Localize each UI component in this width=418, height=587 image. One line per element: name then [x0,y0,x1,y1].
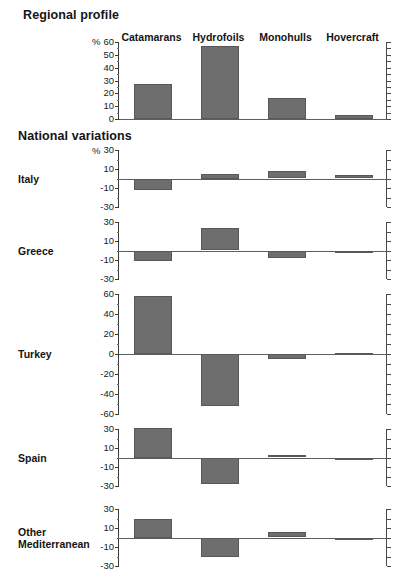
right-axis-tick [387,160,391,161]
y-tick-major [115,414,119,415]
right-axis-tick [387,404,391,405]
right-axis-tick [387,374,391,375]
y-tick-label-regional-0: 0 [109,114,114,124]
right-axis-tick [387,150,391,151]
y-tick-label-turkey-4: 20 [103,329,114,339]
y-tick-minor [117,232,120,233]
right-axis-tick [387,467,391,468]
bar-italy-catamarans [134,179,172,190]
y-tick-major [115,394,119,395]
y-tick-label-turkey-2: -20 [100,369,114,379]
right-axis-tick [387,394,391,395]
y-tick-minor [117,61,120,62]
y-tick-label-turkey-3: 0 [109,349,114,359]
y-tick-major [115,334,119,335]
y-tick-major [115,207,119,208]
right-axis-other [386,509,387,566]
chart-figure: Regional profile National variations Cat… [0,0,418,587]
right-axis-tick [387,100,391,101]
row-label-italy: Italy [18,173,39,185]
bar-regional-monohulls [268,98,306,119]
bar-turkey-monohulls [268,354,306,359]
y-tick-major [115,169,119,170]
y-tick-label-regional-1: 10 [103,101,114,111]
y-tick-label-other-3: 30 [103,504,114,514]
y-tick-label-other-1: -10 [100,542,114,552]
bar-regional-hovercraft [335,115,373,119]
right-axis-tick [387,42,391,43]
y-tick-minor [117,477,120,478]
y-tick-minor [117,100,120,101]
row-label-spain: Spain [18,452,47,464]
bar-italy-hydrofoils [201,174,239,179]
right-axis-tick [387,119,391,120]
y-tick-label-spain-1: -10 [100,462,114,472]
right-axis-tick [387,232,391,233]
y-tick-minor [117,458,120,459]
row-label-line: Mediterranean [18,538,90,550]
right-axis-turkey [386,294,387,414]
y-tick-label-turkey-5: 40 [103,309,114,319]
y-tick-major [115,314,119,315]
y-tick-label-spain-0: -30 [100,481,114,491]
right-axis-tick [387,87,391,88]
bar-other-hovercraft [335,538,373,540]
bar-turkey-catamarans [134,296,172,354]
right-axis-tick [387,566,391,567]
right-axis-tick [387,477,391,478]
y-tick-minor [117,557,120,558]
y-tick-label-regional-2: 20 [103,89,114,99]
bar-other-hydrofoils [201,538,239,558]
y-tick-label-italy-0: -30 [100,202,114,212]
y-tick-label-other-0: -30 [100,561,114,571]
y-tick-label-turkey-0: -60 [100,409,114,419]
row-label-other: OtherMediterranean [18,526,90,550]
right-axis-tick [387,74,391,75]
y-tick-major [115,294,119,295]
row-label-line: Turkey [18,348,52,360]
panel-regional: 0102030405060 [0,42,418,119]
right-axis-tick [387,528,391,529]
bar-italy-monohulls [268,171,306,179]
bar-other-monohulls [268,532,306,538]
y-tick-label-spain-2: 10 [103,443,114,453]
panel-other: -30-101030OtherMediterranean [0,509,418,566]
right-axis-greece [386,222,387,279]
y-tick-major [115,429,119,430]
right-axis-tick [387,169,391,170]
y-tick-minor [117,364,120,365]
plot-area-turkey [118,294,387,414]
right-axis-tick [387,414,391,415]
right-axis-tick [387,458,391,459]
right-axis-tick [387,188,391,189]
right-axis-tick [387,106,391,107]
right-axis-tick [387,547,391,548]
right-axis-tick [387,61,391,62]
right-axis-tick [387,68,391,69]
panel-turkey: -60-40-200204060Turkey [0,294,418,414]
bar-regional-hydrofoils [201,46,239,119]
y-tick-major [115,55,119,56]
y-tick-minor [117,87,120,88]
right-axis-tick [387,314,391,315]
right-axis-tick [387,486,391,487]
y-tick-minor [117,113,120,114]
y-tick-major [115,528,119,529]
row-label-greece: Greece [18,245,54,257]
bar-greece-hovercraft [335,251,373,253]
y-tick-major [115,547,119,548]
y-tick-minor [117,439,120,440]
y-tick-label-spain-3: 30 [103,424,114,434]
right-axis-tick [387,198,391,199]
y-tick-major [115,354,119,355]
y-tick-major [115,150,119,151]
y-tick-label-regional-3: 30 [103,76,114,86]
regional-profile-title: Regional profile [23,8,119,22]
row-label-line: Italy [18,173,39,185]
right-axis-tick [387,384,391,385]
y-tick-major [115,486,119,487]
right-axis-tick [387,279,391,280]
right-axis-tick [387,448,391,449]
y-tick-label-greece-2: 10 [103,236,114,246]
y-tick-major [115,68,119,69]
